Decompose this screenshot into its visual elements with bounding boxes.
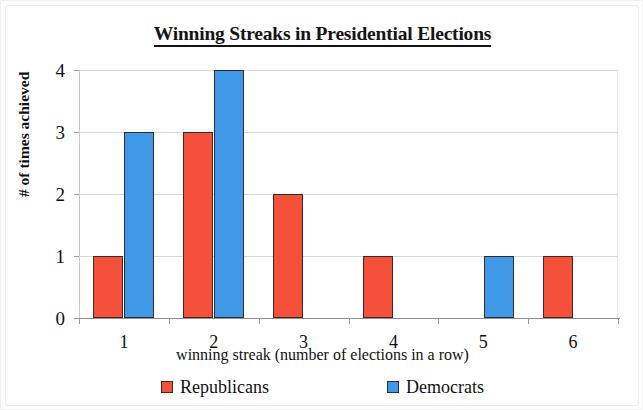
- x-tick-mark: [528, 318, 529, 324]
- y-tick-label: 3: [56, 123, 66, 142]
- x-tick-mark: [438, 318, 439, 324]
- legend-item-democrats[interactable]: Democrats: [387, 378, 484, 396]
- chart-title-text: Winning Streaks in Presidential Election…: [154, 23, 491, 47]
- y-gridline: [79, 132, 618, 133]
- bar-democrats-5: [484, 256, 514, 318]
- chart-legend: RepublicansDemocrats: [1, 378, 643, 396]
- bar-republicans-1: [93, 256, 123, 318]
- x-tick-mark: [259, 318, 260, 324]
- bar-republicans-6: [543, 256, 573, 318]
- bar-republicans-2: [183, 132, 213, 318]
- y-tick-label: 1: [56, 247, 66, 266]
- y-tick-label: 2: [56, 185, 66, 204]
- x-axis-title: winning streak (number of elections in a…: [1, 346, 643, 364]
- x-tick-mark: [79, 318, 80, 324]
- chart-title: Winning Streaks in Presidential Election…: [1, 23, 643, 45]
- x-tick-mark: [618, 318, 619, 324]
- y-tick-mark: [74, 194, 79, 195]
- y-gridline: [79, 256, 618, 257]
- x-tick-mark: [349, 318, 350, 324]
- y-gridline: [79, 70, 618, 71]
- bar-democrats-1: [124, 132, 154, 318]
- plot-area: 01234123456: [79, 70, 618, 318]
- bar-republicans-3: [273, 194, 303, 318]
- y-axis-title: # of times achieved: [15, 72, 33, 197]
- legend-item-republicans[interactable]: Republicans: [161, 378, 269, 396]
- legend-label: Democrats: [406, 378, 484, 396]
- legend-label: Republicans: [180, 378, 269, 396]
- x-tick-mark: [169, 318, 170, 324]
- y-tick-label: 0: [56, 309, 66, 328]
- y-tick-mark: [74, 256, 79, 257]
- legend-swatch-icon: [161, 381, 173, 393]
- bar-republicans-4: [363, 256, 393, 318]
- y-tick-mark: [74, 70, 79, 71]
- y-tick-mark: [74, 132, 79, 133]
- y-gridline: [79, 194, 618, 195]
- bar-democrats-2: [214, 70, 244, 318]
- y-tick-label: 4: [56, 61, 66, 80]
- legend-swatch-icon: [387, 381, 399, 393]
- chart-screenshot: Winning Streaks in Presidential Election…: [0, 0, 643, 410]
